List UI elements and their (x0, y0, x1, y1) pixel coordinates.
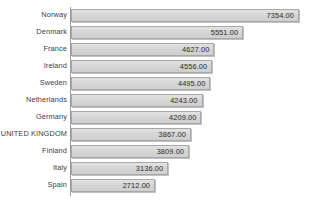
bar-value-label: 4556.00 (180, 61, 207, 74)
category-label: Italy (0, 162, 67, 174)
bar: 3809.00 (71, 145, 189, 158)
category-label: Ireland (0, 60, 67, 72)
bar-wrapper: 3867.00 (71, 128, 191, 141)
bar-row: Netherlands4243.00 (0, 92, 310, 109)
plot-area: Norway7354.00Denmark5551.00France4627.00… (0, 7, 310, 199)
bar-value-label: 4243.00 (170, 95, 197, 108)
bar: 3136.00 (71, 162, 168, 175)
bar-wrapper: 4627.00 (71, 43, 214, 56)
bar-row: Sweden4495.00 (0, 75, 310, 92)
bar-wrapper: 4209.00 (71, 111, 201, 124)
bar-wrapper: 7354.00 (71, 9, 299, 22)
bar-value-label: 4209.00 (169, 112, 196, 125)
bar-wrapper: 4495.00 (71, 77, 210, 90)
bar-row: Denmark5551.00 (0, 24, 310, 41)
bar: 3867.00 (71, 128, 191, 141)
category-label: Spain (0, 179, 67, 191)
bar: 2712.00 (71, 179, 155, 192)
bar-value-label: 3867.00 (158, 129, 185, 142)
bar-rows: Norway7354.00Denmark5551.00France4627.00… (0, 7, 310, 194)
bar-chart: Norway7354.00Denmark5551.00France4627.00… (0, 0, 310, 205)
category-label: Germany (0, 111, 67, 123)
bar-wrapper: 3136.00 (71, 162, 168, 175)
category-label: Finland (0, 145, 67, 157)
bar-row: Ireland4556.00 (0, 58, 310, 75)
category-label: Norway (0, 9, 67, 21)
bar-row: France4627.00 (0, 41, 310, 58)
category-label: Netherlands (0, 94, 67, 106)
bar: 4627.00 (71, 43, 214, 56)
bar-value-label: 4627.00 (182, 44, 209, 57)
category-label: Denmark (0, 26, 67, 38)
bar-row: Germany4209.00 (0, 109, 310, 126)
bar: 5551.00 (71, 26, 243, 39)
bar-value-label: 4495.00 (178, 78, 205, 91)
bar-value-label: 7354.00 (267, 10, 294, 23)
bar-row: Spain2712.00 (0, 177, 310, 194)
bar-value-label: 3136.00 (136, 163, 163, 176)
bar: 4495.00 (71, 77, 210, 90)
bar: 4243.00 (71, 94, 203, 107)
bar: 7354.00 (71, 9, 299, 22)
bar-wrapper: 5551.00 (71, 26, 243, 39)
bar-wrapper: 4243.00 (71, 94, 203, 107)
bar-row: Finland3809.00 (0, 143, 310, 160)
bar: 4209.00 (71, 111, 201, 124)
bar-value-label: 3809.00 (157, 146, 184, 159)
bar-row: UNITED KINGDOM3867.00 (0, 126, 310, 143)
bar-row: Italy3136.00 (0, 160, 310, 177)
category-label: UNITED KINGDOM (0, 128, 67, 140)
category-label: France (0, 43, 67, 55)
bar-value-label: 5551.00 (211, 27, 238, 40)
bar-row: Norway7354.00 (0, 7, 310, 24)
bar-wrapper: 2712.00 (71, 179, 155, 192)
category-label: Sweden (0, 77, 67, 89)
bar-value-label: 2712.00 (123, 180, 150, 193)
bar-wrapper: 4556.00 (71, 60, 212, 73)
bar-wrapper: 3809.00 (71, 145, 189, 158)
bar: 4556.00 (71, 60, 212, 73)
